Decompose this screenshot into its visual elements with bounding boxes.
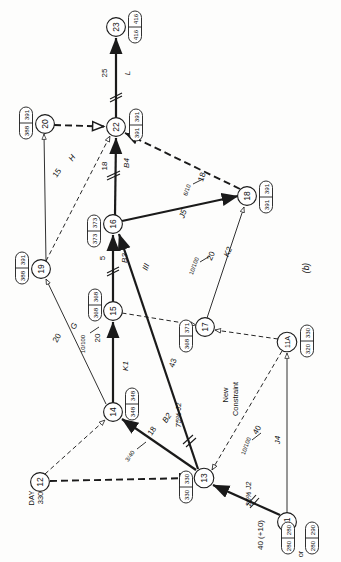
resource-K2: 10/100	[188, 256, 200, 276]
node-19[interactable]: 19	[32, 260, 51, 279]
late-value: 290	[309, 524, 316, 535]
start-note-line1: DAY	[27, 491, 36, 506]
activity-name-B2: B2	[161, 411, 174, 425]
duration-B4: 18	[100, 161, 109, 170]
node-id: 17	[200, 322, 210, 332]
node-id: 11A	[284, 336, 291, 348]
early-value: 416	[132, 29, 139, 40]
duration-B2: 18	[146, 424, 159, 437]
activity-name-J5: J5	[177, 208, 189, 220]
new-constraint-line2: Constraint	[231, 381, 240, 416]
duration-B3: 5	[98, 255, 107, 260]
activity-name-B3: B3	[120, 253, 129, 263]
late-value: 391	[263, 183, 270, 194]
node-15[interactable]: 15	[104, 302, 123, 321]
duration-40plus10: 40 (+10)	[256, 520, 265, 550]
node-13[interactable]: 13	[194, 468, 214, 488]
node-id: 12	[35, 477, 45, 487]
late-value: 416	[132, 13, 139, 24]
node-id: 15	[108, 306, 118, 316]
node-18[interactable]: 18	[238, 187, 257, 206]
activity-arrow-H	[44, 134, 46, 261]
node-14[interactable]: 14	[104, 403, 123, 422]
early-value: 373	[91, 233, 98, 244]
value-box-22: 391 391	[130, 109, 143, 141]
early-value: 280	[285, 540, 292, 551]
activity-name-L: L	[123, 71, 132, 75]
node-17[interactable]: 17	[196, 318, 215, 337]
node-23[interactable]: 23	[107, 18, 126, 37]
late-value: 368	[92, 291, 99, 302]
early-value: 388	[23, 125, 30, 136]
hatch-mark	[107, 171, 120, 177]
duration-J4: 40	[251, 423, 264, 436]
value-box-13: 330 330	[180, 471, 193, 503]
resource-J5: 6/10	[182, 183, 192, 197]
network-diagram: 23 22 20 19 16 15 14 12	[0, 0, 341, 562]
value-box-20: 388 391	[20, 107, 33, 139]
late-value: 330	[304, 327, 311, 338]
dummy-11a-13	[212, 351, 282, 470]
activity-name-J4: J4	[273, 435, 282, 445]
node-id: 18	[242, 191, 252, 201]
new-constraint-line1: New	[221, 387, 230, 403]
node-id: 20	[40, 119, 50, 129]
value-box-17: 368 371	[180, 320, 193, 352]
dummy-18-22	[125, 133, 240, 189]
pointer-tick	[90, 327, 99, 333]
or-label: or	[296, 550, 305, 557]
early-value: 330	[183, 489, 190, 500]
early-value: 320	[304, 343, 311, 354]
late-value: 348	[129, 390, 136, 401]
duration-G: 20	[51, 331, 63, 344]
value-box-19: 388 391	[16, 252, 29, 284]
resource-G: 10/100	[80, 334, 86, 353]
late-value: 391	[19, 254, 26, 265]
node-id: 23	[111, 22, 121, 32]
figure-canvas: 23 22 20 19 16 15 14 12	[0, 0, 341, 562]
value-box-11-b: 280 290	[306, 522, 319, 554]
early-value: 368	[92, 307, 99, 318]
pointer-tick	[137, 442, 146, 449]
resource-duration-G: 20	[93, 333, 102, 342]
nodes: 23 22 20 19 16 15 14 12	[31, 18, 297, 532]
node-22[interactable]: 22	[107, 118, 126, 137]
late-value: 391	[133, 111, 140, 122]
node-id: 13	[199, 473, 209, 483]
value-box-11A: 320 330	[301, 325, 314, 357]
value-box-16: 373 373	[88, 215, 101, 247]
annotation-III: 75% J2	[174, 402, 183, 428]
early-value: 348	[129, 406, 136, 417]
hatch-mark	[107, 174, 120, 180]
node-id: 16	[108, 219, 118, 229]
annotations: DAY 330 New Constraint or (b)	[27, 263, 312, 558]
early-value: 391	[133, 127, 140, 138]
node-value-boxes: 416 416 391 391 388 391 388 391 373	[16, 11, 319, 554]
node-id: 14	[108, 407, 118, 417]
resource-B2: 3/40	[124, 449, 136, 463]
value-box-18: 391 391	[260, 181, 273, 213]
dummy-20-22	[54, 125, 104, 127]
node-20[interactable]: 20	[36, 115, 55, 134]
value-box-23: 416 416	[129, 11, 142, 43]
late-value: 371	[183, 322, 190, 333]
duration-K2: 20	[205, 250, 217, 262]
dummy-12-14	[45, 420, 105, 474]
late-value: 280	[285, 524, 292, 535]
activity-name-K2: K2	[222, 245, 234, 258]
duration-H: 15	[51, 166, 64, 179]
early-value: 388	[19, 270, 26, 281]
dummy-links	[45, 125, 282, 481]
late-value: 373	[91, 217, 98, 228]
figure-label: (b)	[301, 263, 311, 274]
node-12[interactable]: 12	[31, 473, 50, 492]
node-id: 22	[111, 122, 121, 132]
dummy-11a-17	[215, 330, 278, 339]
activity-arrows	[44, 38, 287, 515]
node-11A[interactable]: 11A	[277, 332, 297, 352]
hatch-marks	[107, 93, 259, 508]
duration-L: 25	[100, 68, 109, 77]
start-note-line2: 330	[36, 492, 45, 505]
node-16[interactable]: 16	[104, 215, 123, 234]
resource-J4: 10/100	[240, 436, 252, 456]
